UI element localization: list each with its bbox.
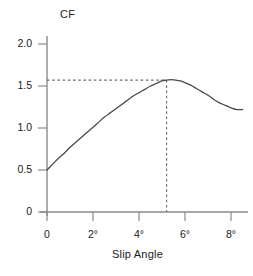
x-tick-label-8: 8° — [218, 228, 244, 240]
y-tick-label-2-0: 2.0 — [0, 37, 32, 49]
y-tick-label-0-5: 0.5 — [0, 163, 32, 175]
x-tick-label-6: 6° — [172, 228, 198, 240]
y-tick-label-0: 0 — [0, 205, 32, 217]
x-axis-ticks — [47, 212, 231, 221]
chart-figure: CF Slip Angle 2.0 1.5 1.0 0.5 0 0 2° 4° … — [0, 0, 253, 276]
y-tick-label-1-5: 1.5 — [0, 79, 32, 91]
cornering-force-curve — [47, 80, 243, 170]
x-tick-label-0: 0 — [34, 228, 60, 240]
x-tick-label-2: 2° — [80, 228, 106, 240]
x-tick-label-4: 4° — [126, 228, 152, 240]
x-axis-title: Slip Angle — [0, 248, 253, 260]
y-axis-title: CF — [60, 8, 75, 20]
y-axis-ticks — [38, 44, 47, 212]
y-tick-label-1-0: 1.0 — [0, 121, 32, 133]
